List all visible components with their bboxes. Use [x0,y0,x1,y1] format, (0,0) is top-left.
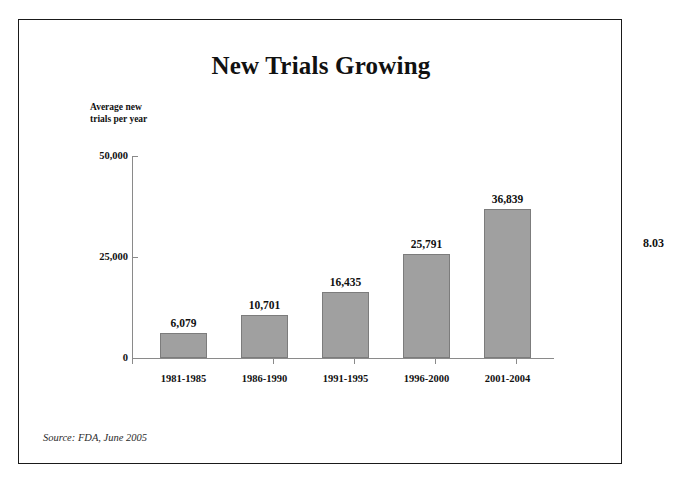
y-tick-50000: 50,000 [54,150,138,162]
source-note: Source: FDA, June 2005 [43,432,147,443]
y-axis-title: Average new trials per year [90,101,147,125]
bar-value-label: 6,079 [144,317,224,330]
category-label-1981-1985: 1981-1985 [139,372,229,385]
x-axis-line [132,358,554,359]
y-tick-label: 50,000 [99,150,128,162]
y-axis-title-line-1: Average new [90,101,147,113]
bar-1986-1990[interactable] [241,315,288,358]
y-tick-mark [132,257,138,258]
x-tick-mark [132,359,133,364]
bar-1991-1995[interactable] [322,292,369,358]
bar-value-label: 10,701 [225,299,305,312]
y-axis-title-line-2: trials per year [90,113,147,125]
y-tick-label: 0 [123,352,128,364]
x-tick-mark [516,359,517,364]
slide-frame: New Trials Growing Average new trials pe… [18,19,622,464]
y-tick-mark [132,156,138,157]
bar-value-label: 16,435 [306,276,386,289]
category-label-1991-1995: 1991-1995 [301,372,391,385]
bar-value-label: 36,839 [468,193,548,206]
bar-value-label: 25,791 [387,238,467,251]
y-tick-label: 25,000 [99,251,128,263]
bar-2001-2004[interactable] [484,209,531,358]
x-tick-mark [354,359,355,364]
category-label-2001-2004: 2001-2004 [463,372,553,385]
category-label-1996-2000: 1996-2000 [382,372,472,385]
slide-number: 8.03 [643,236,664,251]
plot-area: 50,000 25,000 0 6,079 10,701 16,435 25,7… [132,140,572,378]
y-tick-0: 0 [54,352,138,364]
category-label-1986-1990: 1986-1990 [220,372,310,385]
chart-title: New Trials Growing [19,52,623,80]
x-tick-mark [435,359,436,364]
x-tick-mark [273,359,274,364]
y-tick-25000: 25,000 [54,251,138,263]
bar-1981-1985[interactable] [160,333,207,358]
bar-1996-2000[interactable] [403,254,450,358]
